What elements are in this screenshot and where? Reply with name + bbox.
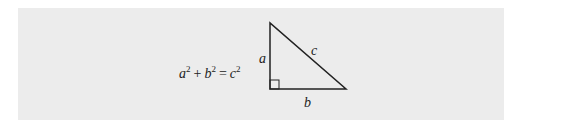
- label-a: a: [259, 51, 266, 66]
- right-triangle-diagram: a c b: [0, 0, 587, 126]
- triangle-shape: [270, 23, 346, 89]
- right-angle-marker-icon: [270, 80, 279, 89]
- label-c: c: [311, 43, 318, 58]
- label-b: b: [304, 95, 311, 110]
